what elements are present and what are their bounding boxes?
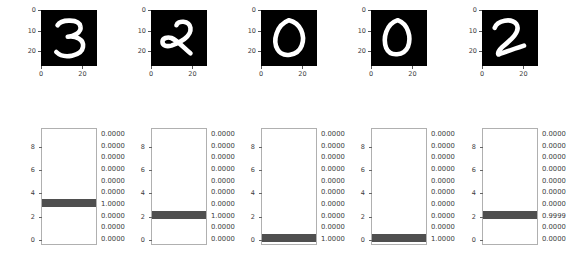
probability-value-label: 0.0000 [542,177,566,184]
image-y-tick-label: 10 [358,27,366,34]
digit-image-axes: 01020020 [261,10,317,66]
bar-y-tick [259,170,262,171]
image-y-tick-label: 10 [469,27,477,34]
image-x-tick [192,66,193,69]
bar-y-tick-label: 4 [251,190,255,197]
probability-bar-row [152,139,206,151]
probability-bar-row [262,174,316,186]
image-x-tick [371,66,372,69]
bar-y-tick [480,147,483,148]
bar-y-tick-label: 8 [251,143,255,150]
bar-y-tick [369,240,372,241]
bar-y-tick [149,147,152,148]
probability-value-label: 0.0000 [542,189,566,196]
mnist-prediction-figure: 01020020024680.00000.00000.00001.00000.0… [0,0,567,257]
digit-image [151,10,207,66]
image-y-tick-label: 10 [138,27,146,34]
image-x-tick [412,66,413,69]
probability-bar-row [483,186,537,198]
probability-bar-row [372,186,426,198]
image-y-tick-label: 20 [138,48,146,55]
bar-y-tick-label: 4 [472,190,476,197]
digit-image [261,10,317,66]
image-x-tick-label: 20 [188,71,196,78]
image-x-tick-label: 20 [519,71,527,78]
image-x-tick-label: 0 [480,71,484,78]
probability-bar-row [262,209,316,221]
probability-value-label: 0.0000 [542,142,566,149]
probability-bar-row [483,174,537,186]
probability-bar-row [483,162,537,174]
probability-bar-row [483,150,537,162]
bar-y-tick [39,193,42,194]
probability-value-label: 0.0000 [542,201,566,208]
probability-bar-axes: 02468 [41,128,97,245]
image-y-tick [38,51,41,52]
bar-y-tick [39,147,42,148]
bar-y-tick [480,170,483,171]
bar-y-tick [480,240,483,241]
probability-bar-row [372,232,426,244]
probability-bar-row [152,232,206,244]
probability-bar-axes: 02468 [261,128,317,245]
bar-y-tick-label: 0 [141,237,145,244]
probability-bar-row [483,232,537,244]
digit-image-axes: 01020020 [41,10,97,66]
bar-y-tick-label: 8 [472,143,476,150]
bar-y-tick-label: 6 [31,167,35,174]
probability-bar [483,211,537,219]
bar-y-tick [480,193,483,194]
probability-bar-row [42,139,96,151]
probability-bar-row [152,209,206,221]
probability-bar [152,211,206,219]
bar-y-tick [369,193,372,194]
bar-y-tick [39,170,42,171]
probability-bar-row [152,150,206,162]
bar-y-tick [259,147,262,148]
image-y-tick [258,51,261,52]
probability-bar-row [152,127,206,139]
probability-bar-row [483,209,537,221]
image-y-tick-label: 0 [142,7,146,14]
bar-y-tick-label: 4 [361,190,365,197]
bar-y-tick [149,217,152,218]
image-y-tick-label: 20 [248,48,256,55]
probability-bar-row [152,174,206,186]
digit-image-axes: 01020020 [371,10,427,66]
image-x-tick [82,66,83,69]
bar-y-tick-label: 8 [31,143,35,150]
prediction-column: 01020020024681.00000.00000.00000.00000.0… [330,0,440,257]
probability-bar-row [483,221,537,233]
probability-bar-row [42,162,96,174]
bar-y-tick [39,217,42,218]
image-y-tick [148,51,151,52]
bar-y-tick-label: 2 [251,214,255,221]
bar-y-tick-label: 2 [141,214,145,221]
bar-y-tick [149,170,152,171]
probability-bar-row [372,127,426,139]
probability-bar-row [42,232,96,244]
bar-y-tick-label: 0 [361,237,365,244]
probability-bar-axes: 02468 [151,128,207,245]
image-y-tick [368,10,371,11]
bar-y-tick [480,217,483,218]
probability-bar [262,234,316,242]
bar-y-tick-label: 2 [31,214,35,221]
probability-bar-row [42,127,96,139]
bar-y-tick-label: 6 [361,167,365,174]
probability-bar-row [152,186,206,198]
image-x-tick-label: 0 [149,71,153,78]
image-y-tick [38,31,41,32]
image-y-tick [258,31,261,32]
prediction-column: 01020020024680.00000.00001.00000.00000.0… [110,0,220,257]
probability-bar-row [262,197,316,209]
probability-value-label: 0.9999 [542,212,566,219]
image-y-tick-label: 20 [28,48,36,55]
bar-y-tick-label: 0 [31,237,35,244]
probability-bar-row [152,197,206,209]
digit-image [482,10,538,66]
image-x-tick-label: 20 [298,71,306,78]
probability-bar-row [262,162,316,174]
image-y-tick [148,31,151,32]
probability-bar-axes: 02468 [482,128,538,245]
